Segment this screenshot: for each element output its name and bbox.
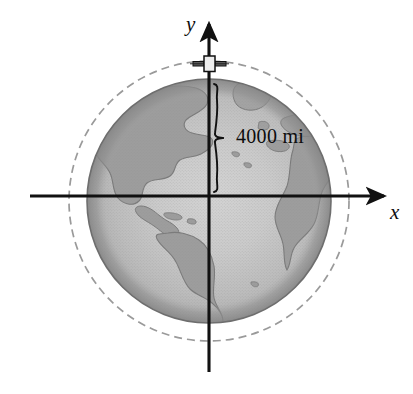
y-axis-label: y [186, 14, 195, 35]
x-axis-label: x [390, 202, 399, 223]
land-island-4 [326, 121, 338, 129]
earth-globe [87, 79, 339, 323]
radius-distance-label: 4000 mi [236, 126, 304, 146]
earth-landmasses [87, 79, 339, 323]
satellite-icon [190, 56, 229, 72]
satellite-orbit-figure: y x 4000 mi [0, 0, 413, 394]
figure-canvas [0, 0, 413, 394]
